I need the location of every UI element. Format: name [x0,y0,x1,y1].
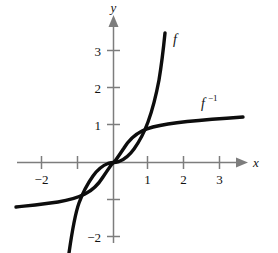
x-axis-arrowhead [236,158,248,168]
y-tick-label-1: 1 [95,118,102,133]
x-axis-label: x [252,155,259,170]
x-tick-label-2: 2 [180,172,187,187]
axes-group [17,15,248,243]
x-tick-label--2: −2 [35,172,49,187]
y-tick-label-2: 2 [95,81,102,96]
curve-label-f-inverse-exponent: −1 [208,93,218,103]
graph-figure: −2 1 2 3 3 2 1 −2 x y f f −1 [0,0,278,253]
y-tick-label-3: 3 [95,44,102,59]
plot-canvas: −2 1 2 3 3 2 1 −2 x y f f −1 [0,0,278,253]
x-tick-label-3: 3 [216,172,223,187]
y-tick-label--2: −2 [87,230,101,245]
y-axis-label: y [109,0,117,15]
x-tick-label-1: 1 [144,172,151,187]
curve-label-f: f [173,32,179,47]
curve-f [69,33,165,253]
curve-label-f-inverse: f −1 [201,93,218,111]
curve-label-f-inverse-base: f [201,96,207,111]
y-axis-arrowhead [109,15,119,27]
